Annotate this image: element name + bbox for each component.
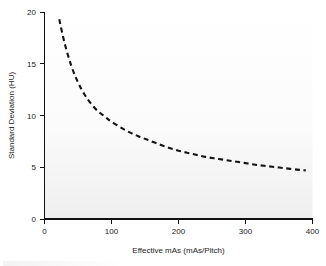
y-tick-label-15: 15 — [27, 60, 36, 69]
x-tick-label-400: 400 — [306, 227, 320, 236]
y-tick-label-10: 10 — [27, 112, 36, 121]
x-tick-label-300: 300 — [239, 227, 253, 236]
y-tick-label-0: 0 — [32, 215, 37, 224]
x-tick-label-0: 0 — [42, 227, 47, 236]
y-tick-label-5: 5 — [32, 163, 37, 172]
caption-smudge — [3, 261, 123, 266]
chart-figure: 0 5 10 15 20 0 100 200 300 400 Effective… — [0, 0, 326, 266]
x-tick-label-100: 100 — [105, 227, 119, 236]
x-tick-label-200: 200 — [172, 227, 186, 236]
y-axis-title: Standard Deviation (HU) — [7, 72, 16, 159]
plot-area-background — [45, 12, 313, 219]
x-axis-title: Effective mAs (mAs/Pitch) — [132, 246, 225, 255]
y-tick-label-20: 20 — [27, 8, 36, 17]
chart-canvas: 0 5 10 15 20 0 100 200 300 400 Effective… — [0, 0, 326, 266]
